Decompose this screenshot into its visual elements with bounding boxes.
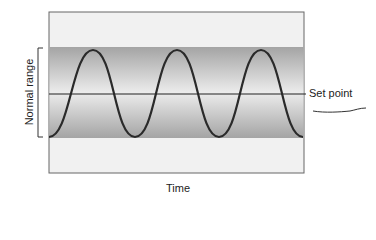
x-axis-label: Time [166, 182, 190, 194]
set-point-label: Set point [309, 87, 352, 99]
handwritten-underline [313, 108, 366, 112]
normal-range-bracket [38, 48, 43, 137]
y-axis-label: Normal range [23, 59, 35, 126]
normal-range-band [50, 47, 304, 138]
